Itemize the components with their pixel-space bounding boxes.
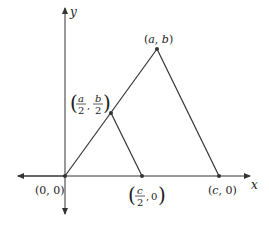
x-axis-label: x xyxy=(251,178,258,192)
point-apex xyxy=(155,47,159,51)
point-mid-base xyxy=(140,174,144,178)
mid-side-label: ( a 2 , b 2 ) xyxy=(70,91,111,116)
svg-text:2: 2 xyxy=(78,105,84,116)
point-base-end xyxy=(217,174,221,178)
y-axis-label: y xyxy=(69,5,77,19)
svg-text:c: c xyxy=(137,185,143,196)
svg-text:2: 2 xyxy=(95,105,101,116)
svg-text:b: b xyxy=(95,93,101,104)
midsegment xyxy=(111,113,142,176)
side-apex-base xyxy=(157,49,219,176)
svg-text:a: a xyxy=(78,93,84,104)
svg-text:(: ( xyxy=(70,91,78,115)
svg-text:(: ( xyxy=(128,183,136,207)
point-origin xyxy=(63,174,67,178)
svg-text:): ) xyxy=(158,183,166,207)
svg-text:): ) xyxy=(103,91,111,115)
svg-text:0: 0 xyxy=(151,191,157,202)
origin-label: (0, 0) xyxy=(35,184,65,197)
triangle-midpoint-diagram: y x (0, 0) (a, b) (c, 0) ( a 2 , b 2 ) (… xyxy=(0,0,269,229)
apex-label: (a, b) xyxy=(144,33,173,46)
svg-text:,: , xyxy=(87,100,90,111)
base-end-label: (c, 0) xyxy=(208,184,237,197)
mid-base-label: ( c 2 , 0 ) xyxy=(128,183,166,208)
svg-text:,: , xyxy=(146,191,149,202)
svg-text:2: 2 xyxy=(137,197,143,208)
